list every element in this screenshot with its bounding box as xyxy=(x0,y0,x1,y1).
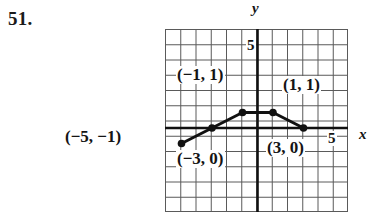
graph-svg xyxy=(165,29,348,212)
data-point xyxy=(269,109,277,117)
data-point xyxy=(239,109,247,117)
data-point xyxy=(178,140,186,148)
x-axis-tick-5: 5 xyxy=(327,131,337,146)
y-axis-tick-5: 5 xyxy=(246,38,256,53)
point-label-minus1-1: (−1, 1) xyxy=(176,66,225,84)
point-label-1-1: (1, 1) xyxy=(282,76,321,94)
point-label-3-0: (3, 0) xyxy=(266,139,305,157)
x-axis-label: x xyxy=(359,126,367,143)
y-axis-label: y xyxy=(252,0,259,17)
point-label-minus3-0: (−3, 0) xyxy=(176,150,225,168)
data-point xyxy=(300,124,308,132)
point-label-minus5-minus1: (−5, −1) xyxy=(64,128,122,146)
data-point xyxy=(208,124,216,132)
problem-number: 51. xyxy=(8,8,32,30)
coordinate-graph xyxy=(165,29,348,212)
worksheet-page: 51. xyxy=(0,0,373,222)
